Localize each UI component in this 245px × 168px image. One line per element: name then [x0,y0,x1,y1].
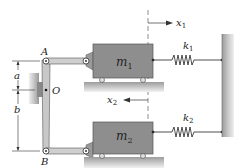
wheel-icon [141,78,146,83]
wheel-icon [100,78,105,83]
ground-upper [84,82,164,92]
dimension-b-label: b [14,104,20,115]
pivot-o-label: O [52,85,60,96]
displacement-x2-label: x2 [107,94,117,107]
spring-k2-label: k2 [183,112,194,125]
wheel-icon [141,154,146,159]
diagram-canvas: a b A O B m1 [0,0,245,168]
lever-arm [42,60,50,152]
spring-k1-label: k1 [183,40,194,53]
pivot-support [29,73,44,104]
displacement-x1-arrow [148,21,173,26]
dimension-a-label: a [14,70,20,81]
wheel-icon [100,154,105,159]
spring-k2 [152,127,223,137]
point-b-label: B [40,156,48,167]
displacement-x2-arrow [123,98,148,103]
pivot-o-icon [45,89,48,92]
displacement-x1-label: x1 [176,17,186,30]
ground-lower [84,157,164,168]
fixed-wall [222,34,234,137]
point-a-label: A [40,46,48,57]
spring-k1 [152,55,223,65]
